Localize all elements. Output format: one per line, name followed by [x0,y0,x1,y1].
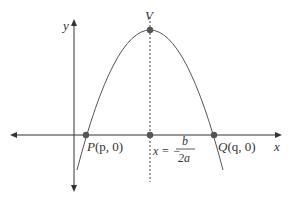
point-p-label: P(p, 0) [86,139,123,154]
y-axis-label: y [61,18,69,33]
x-axis [10,132,282,138]
point-q-coords: (q, 0) [227,139,255,154]
point-p-name: P [86,139,95,154]
vertex-point [147,27,153,33]
vertex-label: V [145,8,155,23]
midpoint-on-axis [147,132,153,138]
point-p-coords: (p, 0) [95,139,123,154]
point-q [211,132,217,138]
x-axis-label: x [273,139,280,154]
point-p [83,132,89,138]
point-q-label: Q(q, 0) [218,139,256,154]
aos-denominator: 2a [178,151,190,165]
aos-lhs: x = − [152,144,181,158]
y-axis [71,19,77,192]
axis-of-symmetry-label: x = − b 2a [152,134,195,165]
aos-numerator: b [182,134,188,148]
parabola-diagram: y x V P(p, 0) Q(q, 0) x = − b 2a [0,0,289,198]
